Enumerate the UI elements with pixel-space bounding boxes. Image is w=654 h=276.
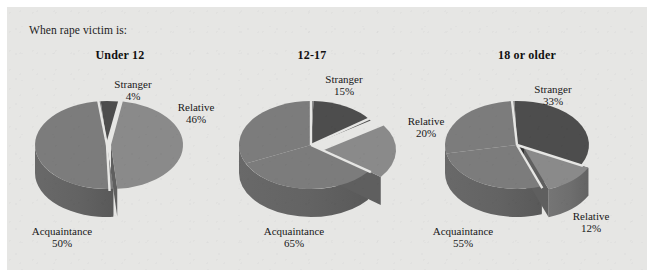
label-relative-name: Relative [178, 101, 215, 113]
figure-caption: When rape victim is: [29, 24, 127, 36]
label-acquaintance-12-17: Acquaintance 65% [234, 225, 354, 250]
label-relative-name: Relative [573, 210, 610, 222]
label-acquaintance-18-or-older: Acquaintance 55% [403, 225, 523, 250]
label-relative-name: Relative [408, 115, 445, 127]
label-relative-pct: 12% [554, 222, 628, 234]
label-acquaintance-under-12: Acquaintance 50% [2, 225, 122, 250]
pie-chart-18-or-older [443, 99, 623, 219]
label-relative-18-or-older: Relative 12% [554, 210, 628, 235]
panel-title-18-or-older: 18 or older [467, 48, 587, 63]
label-stranger-name: Stranger [534, 83, 571, 95]
label-stranger-name: Stranger [325, 73, 362, 85]
label-stranger-12-17: Stranger 15% [302, 73, 386, 98]
label-stranger-pct: 33% [511, 95, 595, 107]
label-acquaintance-pct: 55% [403, 237, 523, 249]
label-acquaintance-name: Acquaintance [433, 225, 493, 237]
label-stranger-name: Stranger [114, 78, 151, 90]
label-relative-under-12: Relative 46% [159, 101, 233, 126]
panel-title-under-12: Under 12 [60, 48, 180, 63]
label-acquaintance-pct: 65% [234, 237, 354, 249]
label-stranger-under-12: Stranger 4% [91, 78, 175, 103]
label-acquaintance-pct: 50% [2, 237, 122, 249]
label-stranger-18-or-older: Stranger 33% [511, 83, 595, 108]
figure-canvas: When rape victim is: Under 12 Stranger 4… [7, 7, 647, 270]
label-acquaintance-name: Acquaintance [32, 225, 92, 237]
label-acquaintance-name: Acquaintance [264, 225, 324, 237]
label-relative-pct: 46% [159, 113, 233, 125]
label-stranger-pct: 15% [302, 85, 386, 97]
panel-title-12-17: 12-17 [267, 48, 357, 63]
